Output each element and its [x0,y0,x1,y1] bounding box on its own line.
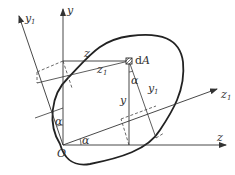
z1-dimension-line [37,61,129,83]
svg-text:1: 1 [227,94,231,102]
rotated-axes-diagram: y y 1 z 1 z O d A z z 1 y y 1 α α α [0,0,235,175]
dA-label-A: A [141,54,150,67]
y-dim-label: y [119,94,127,107]
alpha-label-z: α [82,134,90,147]
z1-dim-label: z [96,63,103,76]
alpha-label-y: α [55,115,63,128]
z1-axis-label: z [220,88,227,101]
y-axis-label: y [66,4,74,17]
svg-text:1: 1 [103,69,107,77]
diagram-canvas: y y 1 z 1 z O d A z z 1 y y 1 α α α [0,0,235,175]
svg-text:1: 1 [31,18,35,26]
z-axis-label: z [216,131,223,144]
origin-label: O [57,147,66,160]
angle-arc-z [80,139,81,145]
svg-text:1: 1 [154,88,158,96]
dA-label-d: d [135,54,142,67]
alpha-label-dA: α [131,74,139,87]
z-dim-label: z [83,47,90,60]
y1-dimension-line [129,61,156,138]
